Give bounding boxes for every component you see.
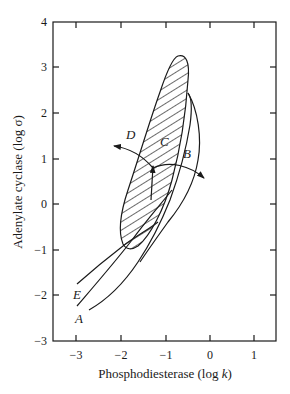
- y-tick-neg3: −3: [34, 334, 47, 348]
- label-c: C: [160, 134, 169, 149]
- label-a: A: [74, 311, 83, 326]
- y-tick-labels: 4 3 2 1 0 −1 −2 −3: [34, 15, 47, 348]
- left-ticks: [53, 67, 59, 295]
- x-tick-1: 1: [251, 348, 257, 362]
- x-tick-neg2: −2: [115, 348, 128, 362]
- y-tick-neg1: −1: [34, 243, 47, 257]
- y-tick-2: 2: [41, 106, 47, 120]
- bottom-ticks: [76, 335, 254, 341]
- y-tick-0: 0: [41, 197, 47, 211]
- x-tick-neg1: −1: [160, 348, 173, 362]
- x-tick-0: 0: [207, 348, 213, 362]
- label-e: E: [72, 287, 81, 302]
- y-tick-3: 3: [41, 60, 47, 74]
- hatched-region-c: [120, 56, 188, 249]
- y-axis-title: Adenylate cyclase (log σ): [10, 115, 25, 249]
- y-tick-4: 4: [41, 15, 47, 29]
- right-ticks: [270, 67, 276, 295]
- top-ticks: [76, 22, 254, 28]
- x-tick-labels: −3 −2 −1 0 1: [70, 348, 257, 362]
- y-tick-neg2: −2: [34, 288, 47, 302]
- phase-diagram: 4 3 2 1 0 −1 −2 −3 −3 −2 −1 0 1 Phosphod…: [0, 0, 290, 394]
- x-axis-title: Phosphodiesterase (log k): [98, 366, 232, 381]
- x-tick-neg3: −3: [70, 348, 83, 362]
- label-b: B: [183, 146, 191, 161]
- y-tick-1: 1: [41, 152, 47, 166]
- label-d: D: [125, 127, 136, 142]
